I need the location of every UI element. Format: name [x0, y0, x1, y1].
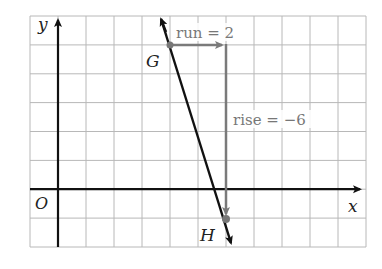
y-axis-label: y [37, 14, 48, 34]
line-gh-body [162, 22, 231, 243]
run-label: run = 2 [176, 24, 234, 42]
x-axis-label: x [348, 196, 358, 216]
point-g [167, 42, 174, 49]
point-g-label: G [146, 51, 160, 71]
grid [30, 16, 366, 247]
rise-label: rise = −6 [233, 111, 306, 129]
origin-label: O [35, 194, 48, 213]
point-h-label: H [199, 225, 216, 245]
point-h [222, 215, 230, 223]
slope-diagram: y x O G H run = 2 rise = −6 [0, 0, 382, 269]
coordinate-plane: y x O G H run = 2 rise = −6 [0, 0, 382, 269]
